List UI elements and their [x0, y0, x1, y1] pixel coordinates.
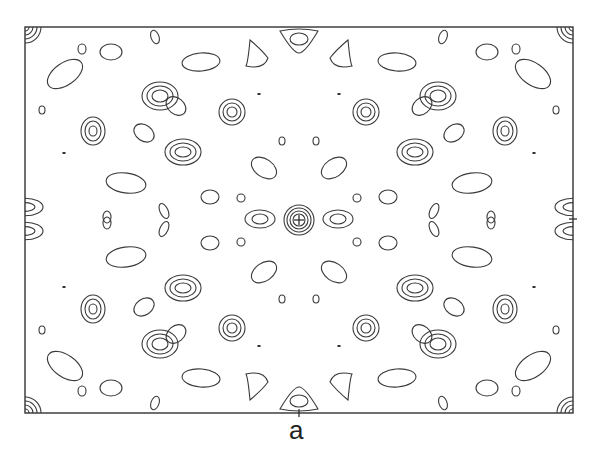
blob-contour [353, 238, 361, 246]
fin-contour [246, 373, 268, 400]
blob-contour [100, 380, 122, 396]
dot-marker [258, 345, 261, 347]
blob-contour [130, 120, 157, 146]
blob-contour [149, 29, 161, 45]
blob-contour [440, 294, 467, 320]
peak-contour [89, 126, 97, 136]
blob-contour [201, 190, 219, 204]
axis-ticks [299, 219, 577, 417]
peak-contour [497, 299, 513, 319]
peak-contour [430, 338, 446, 350]
blob-contour [379, 190, 397, 204]
peak-contour [223, 319, 241, 337]
blob-contour [42, 54, 87, 95]
peak-contour [175, 283, 191, 293]
peak-contour [170, 279, 196, 297]
peak-contour [430, 90, 446, 102]
blob-contour [39, 106, 45, 114]
blob-contour [317, 153, 350, 184]
blob-contour [279, 295, 285, 303]
peak-contour [152, 338, 168, 350]
fin-contour [246, 40, 268, 67]
blob-contour [201, 236, 219, 250]
dot-marker [258, 93, 261, 95]
blob-contour [162, 321, 189, 347]
peak-contour [147, 334, 173, 354]
blob-contour [313, 137, 319, 145]
blob-contour [553, 106, 559, 114]
peak-contour [147, 86, 173, 106]
blob-contour [157, 202, 171, 220]
edge-peak-inner [290, 33, 308, 45]
side-peak-contour [330, 214, 346, 224]
peak-contour [170, 143, 196, 161]
blob-contour [181, 51, 220, 72]
blob-contour [510, 54, 555, 95]
blob-contour [247, 257, 280, 288]
peak-contour [407, 147, 423, 157]
blob-contour [279, 137, 285, 145]
blob-contour [181, 367, 220, 388]
dot-marker [338, 345, 341, 347]
peak-contour [357, 103, 375, 121]
blob-contour [437, 29, 449, 45]
blob-contour [510, 346, 555, 387]
blob-contour [427, 220, 441, 238]
blob-contour [377, 51, 416, 72]
peak-contour [407, 283, 423, 293]
blob-contour [440, 120, 467, 146]
blob-contour [476, 44, 498, 60]
side-peak-contour [323, 210, 353, 228]
blob-contour [377, 367, 416, 388]
blob-contour [42, 346, 87, 387]
blob-contour [451, 170, 493, 195]
side-peak-contour [252, 214, 268, 224]
peak-contour [402, 279, 428, 297]
blob-contour [247, 153, 280, 184]
blob-contour [39, 326, 45, 334]
dot-marker [338, 93, 341, 95]
peak-contour [175, 147, 191, 157]
fin-contour [330, 40, 352, 67]
panel-label-a: a [289, 417, 303, 443]
peak-contour [425, 86, 451, 106]
peak-contour [357, 319, 375, 337]
peak-contour [361, 323, 371, 333]
blob-contour [149, 395, 161, 411]
blob-contour [317, 257, 350, 288]
blob-contour [105, 170, 147, 195]
peak-contour [152, 90, 168, 102]
contour-lines [7, 11, 591, 429]
dot-marker [533, 152, 536, 154]
blob-contour [408, 321, 435, 347]
dot-marker [63, 152, 66, 154]
blob-contour [130, 294, 157, 320]
peak-contour [402, 143, 428, 161]
blob-contour [476, 380, 498, 396]
dot-marker [533, 286, 536, 288]
blob-contour [353, 194, 361, 202]
peak-contour [227, 107, 237, 117]
peak-contour [425, 334, 451, 354]
blob-contour [105, 244, 147, 269]
contour-map-figure [0, 0, 595, 455]
dot-marker [63, 286, 66, 288]
peak-contour [85, 121, 101, 141]
peak-contour [497, 121, 513, 141]
blob-contour [379, 236, 397, 250]
blob-contour [78, 386, 86, 396]
blob-contour [157, 220, 171, 238]
peak-contour [501, 126, 509, 136]
fin-contour [330, 373, 352, 400]
edge-peak-inner [290, 395, 308, 407]
blob-contour [512, 44, 520, 54]
blob-contour [512, 386, 520, 396]
blob-contour [451, 244, 493, 269]
blob-contour [237, 238, 245, 246]
blob-contour [100, 44, 122, 60]
peak-contour [501, 304, 509, 314]
peak-contour [361, 107, 371, 117]
side-peak-contour [245, 210, 275, 228]
blob-contour [313, 295, 319, 303]
peak-contour [85, 299, 101, 319]
